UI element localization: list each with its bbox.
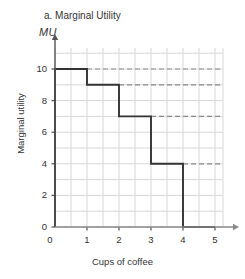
- y-tick-label: 10: [25, 63, 47, 74]
- y-axis-arrow-icon: [52, 34, 58, 40]
- marginal-utility-chart: a. Marginal Utility MU 0246810 012345 Ma…: [0, 0, 245, 279]
- x-tick-label: 0: [40, 234, 60, 245]
- horizontal-gridlines: [55, 53, 223, 227]
- y-tick-label: 4: [25, 158, 47, 169]
- x-tick-label: 3: [141, 234, 161, 245]
- x-tick-label: 5: [205, 234, 225, 245]
- y-tick-label: 6: [25, 126, 47, 137]
- x-axis-arrow-icon: [233, 224, 239, 230]
- vertical-gridlines: [55, 48, 223, 227]
- y-tick-label: 8: [25, 95, 47, 106]
- x-tick-label: 2: [109, 234, 129, 245]
- y-tick-label: 0: [25, 221, 47, 232]
- y-tick-label: 2: [25, 189, 47, 200]
- x-tick-label: 4: [173, 234, 193, 245]
- x-axis-label: Cups of coffee: [0, 256, 245, 267]
- y-axis-label: Marginal utility: [15, 74, 26, 174]
- x-tick-label: 1: [77, 234, 97, 245]
